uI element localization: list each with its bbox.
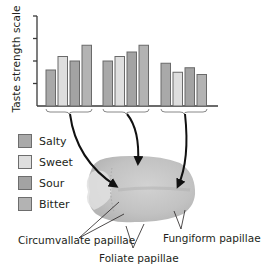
bar-sweet <box>173 72 183 106</box>
legend-item-salty: Salty <box>18 133 67 149</box>
y-axis-label: Taste strength scale <box>10 4 24 114</box>
legend-swatch <box>18 155 32 169</box>
bar-group <box>161 63 207 106</box>
legend-label: Bitter <box>39 198 70 211</box>
legend-item-sour: Sour <box>18 175 64 191</box>
tongue-illustration <box>87 156 195 222</box>
bar-group <box>103 45 149 106</box>
legend-swatch <box>18 197 32 211</box>
bar-salty <box>161 63 171 106</box>
bar-bitter <box>197 75 207 107</box>
bar-groups <box>46 45 207 106</box>
legend-swatch <box>18 134 32 148</box>
bar-salty <box>46 70 56 106</box>
y-axis <box>33 16 37 106</box>
label-circumvallate-papillae: Circumvallate papillae <box>18 234 135 246</box>
bar-bitter <box>139 45 149 106</box>
legend-label: Sour <box>39 177 64 190</box>
bar-sweet <box>58 57 68 107</box>
label-foliate-papillae: Foliate papillae <box>99 252 179 264</box>
legend-label: Salty <box>39 135 67 148</box>
arrow-group2 <box>127 114 138 163</box>
bar-bitter <box>82 45 92 106</box>
bar-sour <box>70 61 80 106</box>
bar-sour <box>185 68 195 106</box>
bar-sweet <box>115 57 125 107</box>
legend-item-bitter: Bitter <box>18 196 70 212</box>
label-fungiform-papillae: Fungiform papillae <box>163 232 261 244</box>
group-braces <box>46 109 207 114</box>
legend-swatch <box>18 176 32 190</box>
bar-sour <box>127 52 137 106</box>
bar-group <box>46 45 92 106</box>
bar-salty <box>103 61 113 106</box>
legend-item-sweet: Sweet <box>18 154 73 170</box>
legend-label: Sweet <box>39 156 73 169</box>
taste-diagram: Taste strength scale Salty Sweet Sour Bi… <box>0 0 261 273</box>
